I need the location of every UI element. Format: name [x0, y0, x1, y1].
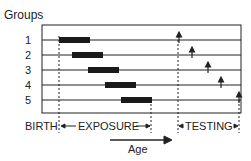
timeline-diagram	[0, 0, 251, 161]
exposure-bar-4	[105, 82, 136, 88]
arrow-up-icon	[219, 77, 224, 82]
exposure-bar-5	[121, 97, 152, 103]
exposure-bar-1	[59, 37, 90, 43]
testing-label: TESTING	[185, 120, 233, 132]
exposure-bar-2	[72, 52, 103, 58]
row-lines	[42, 40, 241, 100]
test-arrows	[177, 32, 242, 103]
arrow-up-icon	[190, 47, 195, 52]
exposure-bar-3	[88, 67, 119, 73]
age-label: Age	[128, 143, 148, 155]
exposure-label: EXPOSURE	[78, 120, 139, 132]
age-arrow-icon	[164, 136, 172, 144]
birth-label: BIRTH	[25, 120, 58, 132]
arrow-up-icon	[177, 32, 182, 37]
arrow-up-icon	[206, 62, 211, 67]
